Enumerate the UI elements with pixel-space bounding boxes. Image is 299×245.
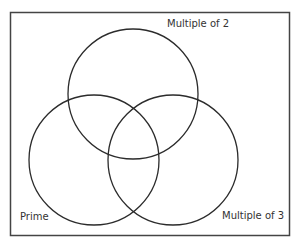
venn-diagram: Multiple of 2 Prime Multiple of 3: [0, 0, 299, 245]
universal-set-frame: [11, 13, 290, 236]
label-multiple-of-3: Multiple of 3: [222, 210, 284, 221]
label-multiple-of-2: Multiple of 2: [167, 18, 229, 29]
label-prime: Prime: [20, 211, 49, 222]
